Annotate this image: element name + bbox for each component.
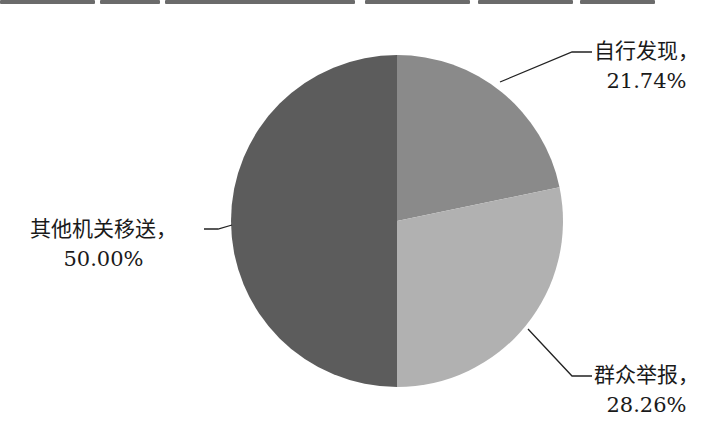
- label-public-report: 群众举报， 28.26%: [594, 360, 699, 420]
- label-self-found-value: 21.74%: [594, 66, 699, 96]
- slice-other-agency: [231, 55, 397, 387]
- label-public-report-name: 群众举报，: [594, 360, 699, 390]
- leader-line-other-agency: [204, 225, 232, 229]
- label-other-agency: 其他机关移送， 50.00%: [30, 214, 177, 274]
- leader-line-self-found: [500, 52, 592, 82]
- leader-line-public-report: [528, 329, 592, 376]
- label-public-report-value: 28.26%: [594, 390, 699, 420]
- label-other-agency-name: 其他机关移送，: [30, 214, 177, 244]
- label-self-found-name: 自行发现，: [594, 36, 699, 66]
- pie-slices: [231, 55, 563, 387]
- label-self-found: 自行发现， 21.74%: [594, 36, 699, 96]
- label-other-agency-value: 50.00%: [30, 244, 177, 274]
- slice-public-report: [397, 187, 563, 387]
